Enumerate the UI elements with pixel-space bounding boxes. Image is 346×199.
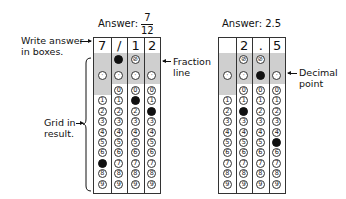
digit-bubble-5[interactable]: 5	[256, 138, 265, 147]
digit-bubble-2[interactable]	[147, 107, 156, 116]
write-answer-label-2: in boxes.	[21, 46, 63, 57]
digit-bubble-8[interactable]: 8	[256, 169, 265, 178]
digit-bubble-2[interactable]: 2	[98, 107, 107, 116]
digit-bubble-5[interactable]: 5	[131, 138, 140, 147]
bracket-icon	[82, 57, 92, 192]
answer-box-2[interactable]: .	[252, 38, 269, 52]
digit-bubble-4[interactable]: 4	[223, 128, 232, 137]
grid-in-right: 2.5·123456789⊘·013456789⊘0123456789·0123…	[218, 37, 286, 194]
decimal-bubble[interactable]: ·	[131, 71, 140, 80]
digit-bubble-8[interactable]: 8	[131, 169, 140, 178]
answer-box-2[interactable]: 1	[127, 38, 144, 52]
slash-bubble[interactable]: ⊘	[256, 55, 265, 64]
write-answer-label-1: Write answer	[21, 35, 83, 46]
digit-bubble-8[interactable]: 8	[98, 169, 107, 178]
digit-bubble-4[interactable]: 4	[147, 128, 156, 137]
answer-fraction: 7 12	[141, 13, 154, 36]
digit-bubble-2[interactable]: 2	[256, 107, 265, 116]
answer-box-3[interactable]: 5	[269, 38, 286, 52]
digit-bubble-4[interactable]: 4	[239, 128, 248, 137]
answer-box-1[interactable]: 2	[236, 38, 253, 52]
digit-bubble-9[interactable]: 9	[98, 180, 107, 189]
decimal-bubble[interactable]	[256, 71, 265, 80]
decimal-point-label-2: point	[299, 78, 323, 89]
digit-bubble-0[interactable]: 0	[131, 86, 140, 95]
digit-bubble-5[interactable]: 5	[223, 138, 232, 147]
answer-box-0[interactable]	[219, 38, 236, 52]
answer-box-1[interactable]: /	[111, 38, 128, 52]
digit-bubble-4[interactable]: 4	[114, 128, 123, 137]
digit-bubble-7[interactable]: 7	[131, 159, 140, 168]
fraction-line-arrow-icon	[163, 61, 171, 62]
digit-bubble-9[interactable]: 9	[272, 180, 281, 189]
digit-bubble-7[interactable]: 7	[239, 159, 248, 168]
digit-bubble-3[interactable]: 3	[98, 117, 107, 126]
answer-boxes: 2.5	[219, 38, 285, 52]
decimal-bubble[interactable]: ·	[98, 71, 107, 80]
write-answer-arrow-icon	[80, 41, 91, 42]
decimal-bubble[interactable]: ·	[223, 71, 232, 80]
decimal-point-label-1: Decimal	[299, 67, 338, 78]
answer-label: Answer:	[98, 18, 138, 29]
digit-bubble-3[interactable]: 3	[256, 117, 265, 126]
digit-bubble-9[interactable]: 9	[147, 180, 156, 189]
fraction-line-label-1: Fraction	[173, 56, 211, 67]
grid-in-left: 7/12·12345689·0123456789⊘·023456789·0134…	[93, 37, 161, 194]
digit-bubble-7[interactable]: 7	[256, 159, 265, 168]
digit-bubble-2[interactable]: 2	[131, 107, 140, 116]
digit-bubble-4[interactable]: 4	[272, 128, 281, 137]
digit-bubble-2[interactable]: 2	[272, 107, 281, 116]
digit-bubble-8[interactable]: 8	[223, 169, 232, 178]
answer-boxes: 7/12	[94, 38, 160, 52]
decimal-point-arrow-icon	[288, 73, 297, 74]
digit-bubble-7[interactable]	[98, 159, 107, 168]
digit-bubble-9[interactable]: 9	[239, 180, 248, 189]
digit-bubble-9[interactable]: 9	[223, 180, 232, 189]
digit-bubble-4[interactable]: 4	[98, 128, 107, 137]
fraction-denominator: 12	[141, 26, 154, 36]
digit-bubble-7[interactable]: 7	[147, 159, 156, 168]
digit-bubble-0[interactable]: 0	[256, 86, 265, 95]
answer-box-0[interactable]: 7	[94, 38, 111, 52]
digit-bubble-2[interactable]	[239, 107, 248, 116]
answer-box-3[interactable]: 2	[144, 38, 161, 52]
right-answer-label: Answer: 2.5	[222, 18, 281, 29]
digit-bubble-7[interactable]: 7	[272, 159, 281, 168]
digit-bubble-9[interactable]: 9	[256, 180, 265, 189]
digit-bubble-3[interactable]: 3	[223, 117, 232, 126]
slash-bubble[interactable]: ⊘	[131, 55, 140, 64]
digit-bubble-2[interactable]: 2	[223, 107, 232, 116]
grid-in-label-2: result.	[44, 128, 74, 139]
digit-bubble-7[interactable]: 7	[223, 159, 232, 168]
digit-bubble-4[interactable]: 4	[131, 128, 140, 137]
digit-bubble-9[interactable]: 9	[131, 180, 140, 189]
digit-bubble-3[interactable]: 3	[131, 117, 140, 126]
fraction-numerator: 7	[144, 13, 150, 23]
digit-bubble-9[interactable]: 9	[114, 180, 123, 189]
digit-bubble-7[interactable]: 7	[114, 159, 123, 168]
digit-bubble-2[interactable]: 2	[114, 107, 123, 116]
grid-in-label-1: Grid in	[44, 117, 76, 128]
fraction-line-label-2: line	[173, 67, 190, 78]
digit-bubble-5[interactable]: 5	[98, 138, 107, 147]
digit-bubble-4[interactable]: 4	[256, 128, 265, 137]
